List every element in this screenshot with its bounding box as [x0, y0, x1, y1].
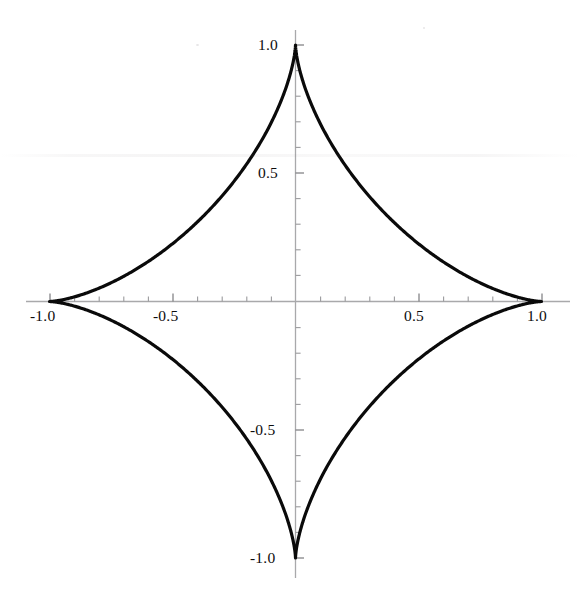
x-tick-label-neg-half: -0.5: [153, 307, 178, 325]
y-tick-label-neg-one: -1.0: [250, 549, 275, 567]
x-tick-label-neg-one: -1.0: [30, 307, 55, 325]
x-tick-label-pos-one: 1.0: [527, 307, 547, 325]
axes-group: [26, 30, 570, 578]
plot-canvas: [0, 0, 580, 601]
y-tick-label-neg-half: -0.5: [250, 421, 275, 439]
y-tick-label-pos-one: 1.0: [258, 36, 278, 54]
x-tick-label-pos-half: 0.5: [404, 307, 424, 325]
y-tick-label-pos-half: 0.5: [258, 164, 278, 182]
astroid-plot-figure: -1.0 -0.5 0.5 1.0 1.0 0.5 -0.5 -1.0: [0, 0, 580, 601]
